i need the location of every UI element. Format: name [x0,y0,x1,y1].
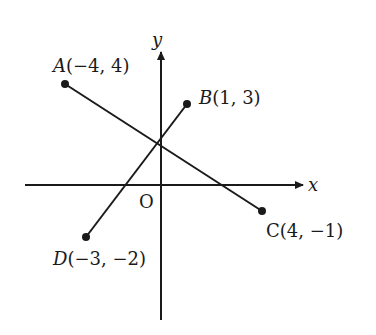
label-c: C(4, −1) [266,220,343,241]
x-axis-label: x [308,174,318,195]
segment-db [86,104,187,237]
point-b [183,100,191,108]
point-a [61,80,69,88]
origin-label: O [139,191,154,212]
point-c [258,207,266,215]
label-a: A(−4, 4) [51,55,129,76]
label-b: B(1, 3) [198,87,261,108]
point-d [82,233,90,241]
y-axis-label: y [151,29,163,50]
coordinate-diagram: x y O A(−4, 4) B(1, 3) C(4, −1) D(−3, −2… [0,0,376,335]
label-d: D(−3, −2) [52,248,146,269]
